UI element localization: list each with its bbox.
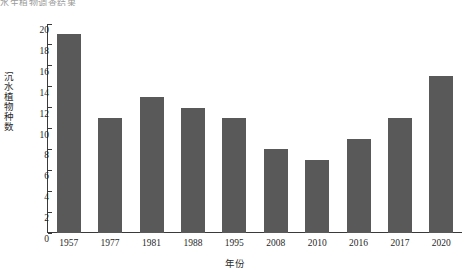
bar[interactable] [429, 76, 453, 233]
plot-area: 20181614121086420 [47, 24, 462, 233]
bar[interactable] [305, 160, 329, 233]
bar[interactable] [98, 118, 122, 233]
bar-slot [421, 24, 462, 233]
x-tick-label: 1977 [89, 238, 130, 248]
bar-chart-figure: 水生植物调查结果 沉水植物种数 20181614121086420 195719… [0, 0, 470, 280]
bar[interactable] [347, 139, 371, 233]
y-axis-title: 沉水植物种数 [0, 72, 14, 132]
bar[interactable] [181, 108, 205, 233]
bar[interactable] [57, 34, 81, 233]
x-axis-title: 年份 [0, 256, 470, 270]
x-tick-label: 2020 [421, 238, 462, 248]
bar-slot [131, 24, 172, 233]
bar-slot [214, 24, 255, 233]
x-tick-label: 1995 [214, 238, 255, 248]
x-tick-label: 1981 [131, 238, 172, 248]
x-tick-label: 2017 [379, 238, 420, 248]
bar-series [48, 24, 462, 233]
clipped-caption-fragment: 水生植物调查结果 [0, 0, 200, 6]
bar-slot [172, 24, 213, 233]
x-tick-label: 1988 [172, 238, 213, 248]
x-tick-label: 1957 [48, 238, 89, 248]
bar[interactable] [222, 118, 246, 233]
bar-slot [296, 24, 337, 233]
bar[interactable] [264, 149, 288, 233]
x-tick-label: 2016 [338, 238, 379, 248]
bar-slot [255, 24, 296, 233]
bar-slot [379, 24, 420, 233]
bar[interactable] [140, 97, 164, 233]
x-tick-label: 2008 [255, 238, 296, 248]
bar-slot [338, 24, 379, 233]
bar-slot [89, 24, 130, 233]
x-axis-tick-labels: 1957197719811988199520082010201620172020 [48, 238, 462, 248]
x-tick-label: 2010 [296, 238, 337, 248]
bar-slot [48, 24, 89, 233]
bar[interactable] [388, 118, 412, 233]
